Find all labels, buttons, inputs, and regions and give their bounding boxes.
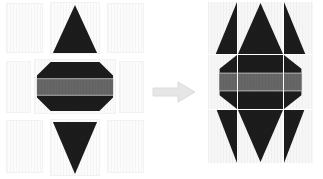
triangle-down-tip-shape — [238, 110, 283, 163]
tile-texture — [7, 62, 30, 112]
tile-texture — [7, 121, 42, 172]
tile-r1c2 — [284, 55, 314, 110]
tile-r2c0 — [208, 110, 238, 164]
tile-texture — [108, 4, 143, 52]
tile-r2c1 — [238, 110, 284, 164]
tile-r0c1 — [238, 2, 284, 55]
tile-r1c1 — [238, 55, 284, 110]
triangle-down-left-shape — [208, 110, 237, 163]
tile-r2c0 — [6, 120, 43, 173]
tile-r0c1 — [50, 2, 100, 54]
tile-r1c2 — [119, 61, 144, 113]
tile-r1c1 — [34, 59, 116, 114]
tile-r0c2 — [107, 3, 144, 53]
tile-texture — [7, 4, 42, 52]
band-right-shape — [284, 55, 313, 109]
tile-r2c2 — [284, 110, 314, 164]
triangle-up-shape — [51, 3, 99, 53]
triangle-up-right-half-shape — [284, 2, 313, 54]
exploded-grid — [2, 0, 146, 179]
triangle-up-left-half-shape — [208, 2, 237, 54]
assembled-grid — [208, 2, 314, 164]
diagram-canvas — [0, 0, 323, 179]
tile-r1c0 — [208, 55, 238, 110]
triangle-down-shape — [51, 120, 99, 175]
right-arrow-icon — [152, 80, 196, 104]
tile-r1c0 — [6, 61, 31, 113]
tile-r0c0 — [6, 3, 43, 53]
tile-r0c2 — [284, 2, 314, 55]
octagon-banded-shape — [238, 55, 283, 109]
tile-r0c0 — [208, 2, 238, 55]
triangle-down-right-shape — [284, 110, 313, 163]
tile-texture — [120, 62, 143, 112]
tile-r2c1 — [50, 119, 100, 176]
triangle-up-tip-shape — [238, 2, 283, 54]
band-left-shape — [208, 55, 237, 109]
tile-texture — [108, 121, 143, 172]
tile-r2c2 — [107, 120, 144, 173]
octagon-banded-shape — [35, 60, 115, 113]
